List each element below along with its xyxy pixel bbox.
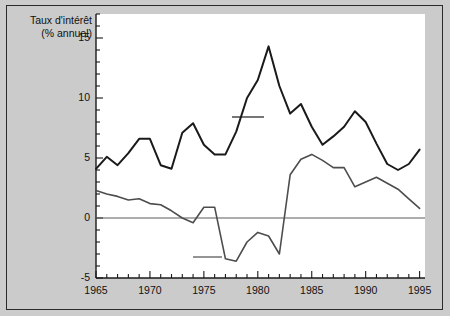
y-tick-label: 5 [60, 151, 90, 163]
y-tick-label: 0 [60, 211, 90, 223]
x-tick-label: 1985 [290, 284, 334, 296]
x-tick-label: 1970 [128, 284, 172, 296]
y-tick-label: 10 [60, 91, 90, 103]
x-tick-label: 1965 [74, 284, 118, 296]
y-tick-label: 15 [60, 31, 90, 43]
x-tick-label: 1990 [344, 284, 388, 296]
x-tick-label: 1980 [236, 284, 280, 296]
x-tick-label: 1975 [182, 284, 226, 296]
x-tick-label: 1995 [398, 284, 442, 296]
figure-container: Taux d'intérêt (% annuel) Taux d'intérêt… [0, 0, 450, 316]
y-tick-label: -5 [60, 271, 90, 283]
